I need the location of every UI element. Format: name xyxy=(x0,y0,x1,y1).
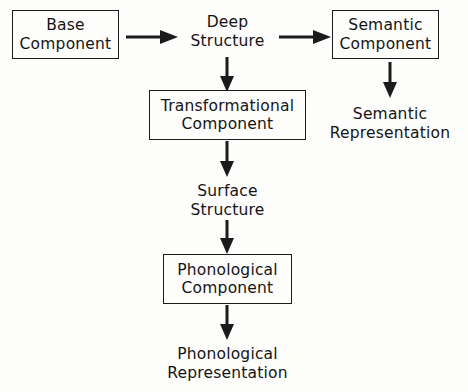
node-base-component: Base Component xyxy=(12,10,119,59)
node-deep-structure: Deep Structure xyxy=(175,9,280,54)
node-transformational-component-line1: Transformational xyxy=(161,97,294,116)
node-phonological-representation-line1: Phonological xyxy=(177,345,278,364)
arrow-deep-to-semantic-component xyxy=(279,28,333,46)
node-semantic-component-line1: Semantic xyxy=(348,16,422,35)
node-phonological-representation: Phonological Representation xyxy=(140,341,315,386)
arrow-phonological-component-to-phonological-representation xyxy=(218,305,236,341)
arrow-surface-to-phonological-component xyxy=(218,220,236,255)
node-base-component-line2: Component xyxy=(20,35,112,54)
node-deep-structure-line2: Structure xyxy=(191,32,265,51)
node-transformational-component-line2: Component xyxy=(182,115,274,134)
node-phonological-component-line1: Phonological xyxy=(177,261,278,280)
node-phonological-component: Phonological Component xyxy=(163,254,292,304)
node-phonological-representation-line2: Representation xyxy=(167,364,288,383)
node-semantic-representation-line1: Semantic xyxy=(353,105,427,124)
node-semantic-representation: Semantic Representation xyxy=(320,101,460,146)
node-semantic-component: Semantic Component xyxy=(332,10,439,59)
node-surface-structure-line1: Surface xyxy=(197,182,257,201)
node-phonological-component-line2: Component xyxy=(182,279,274,298)
node-semantic-component-line2: Component xyxy=(340,35,432,54)
node-base-component-line1: Base xyxy=(46,16,85,35)
node-semantic-representation-line2: Representation xyxy=(330,124,451,143)
arrow-deep-to-transformational xyxy=(218,57,236,93)
arrow-transformational-to-surface xyxy=(218,141,236,178)
flow-diagram: Base Component Deep Structure Semantic C… xyxy=(0,0,468,392)
node-surface-structure: Surface Structure xyxy=(175,178,280,223)
node-transformational-component: Transformational Component xyxy=(149,90,306,140)
arrow-base-to-deep xyxy=(126,28,180,46)
node-surface-structure-line2: Structure xyxy=(191,201,265,220)
node-deep-structure-line1: Deep xyxy=(207,13,249,32)
arrow-semantic-component-to-semantic-representation xyxy=(381,62,399,99)
